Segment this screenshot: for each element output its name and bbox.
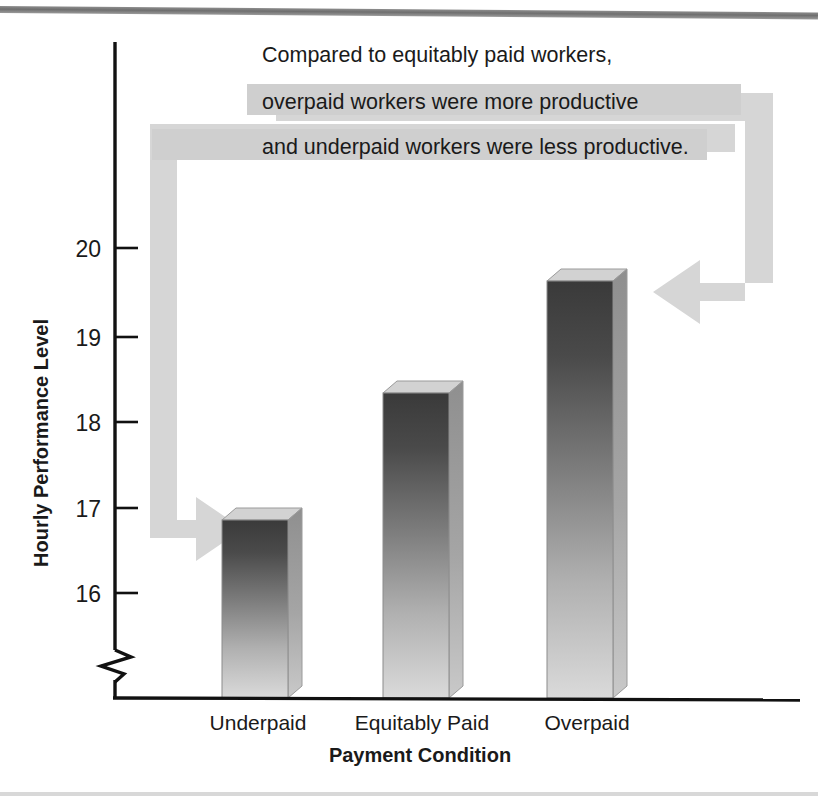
callout-text: Compared to equitably paid workers, over… bbox=[262, 43, 689, 159]
callout-line-3: and underpaid workers were less producti… bbox=[262, 135, 689, 159]
bar-equitably-paid-side-face bbox=[449, 381, 463, 698]
bar-equitably-paid[interactable] bbox=[383, 381, 463, 698]
bar-underpaid-front-face bbox=[222, 520, 288, 698]
y-tick-label-16: 16 bbox=[75, 581, 101, 607]
bar-equitably-paid-front-face bbox=[383, 393, 449, 698]
x-tick-labels: Underpaid Equitably Paid Overpaid bbox=[210, 711, 630, 734]
bar-overpaid-front-face bbox=[547, 281, 613, 698]
x-axis-title: Payment Condition bbox=[329, 744, 511, 766]
bar-underpaid-side-face bbox=[288, 508, 302, 698]
bars-group bbox=[222, 269, 627, 698]
y-tick-label-17: 17 bbox=[75, 496, 101, 522]
y-tick-label-20: 20 bbox=[75, 236, 101, 262]
bar-chart-figure: Compared to equitably paid workers, over… bbox=[0, 0, 818, 800]
bar-overpaid-side-face bbox=[613, 269, 627, 698]
y-axis-title: Hourly Performance Level bbox=[30, 319, 52, 567]
x-tick-label-underpaid: Underpaid bbox=[210, 711, 307, 734]
y-tick-labels: 20 19 18 17 16 bbox=[75, 236, 101, 607]
page-bottom-rule bbox=[0, 792, 818, 796]
x-tick-label-equitably-paid: Equitably Paid bbox=[355, 711, 489, 734]
y-tick-label-18: 18 bbox=[75, 410, 101, 436]
x-axis-line bbox=[113, 698, 800, 700]
bar-overpaid[interactable] bbox=[547, 269, 627, 698]
callout-line-2: overpaid workers were more productive bbox=[262, 90, 638, 114]
callout-line-1: Compared to equitably paid workers, bbox=[262, 43, 612, 67]
x-tick-label-overpaid: Overpaid bbox=[544, 711, 629, 734]
y-axis-break-icon bbox=[101, 650, 131, 682]
y-tick-label-19: 19 bbox=[75, 325, 101, 351]
chart-svg: Compared to equitably paid workers, over… bbox=[0, 0, 818, 800]
bar-underpaid[interactable] bbox=[222, 508, 302, 698]
